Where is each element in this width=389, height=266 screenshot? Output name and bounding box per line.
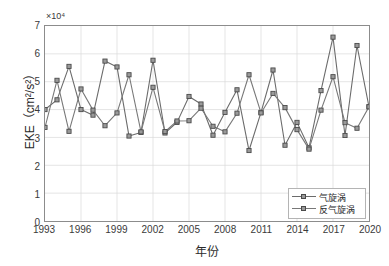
x-axis-title-text: 年份 [195,245,219,259]
data-point-marker [139,130,143,134]
x-tick-label: 2002 [142,224,164,235]
data-point-marker [235,88,239,92]
data-point-marker [259,111,263,115]
data-point-marker [355,126,359,130]
x-tick-label: 2020 [359,224,381,235]
data-point-marker [295,120,299,124]
data-point-marker [79,87,83,91]
data-point-marker [91,108,95,112]
data-point-marker [211,133,215,137]
data-point-marker [283,106,287,110]
data-point-marker [103,124,107,128]
y-axis-exponent-label: ×10⁴ [46,11,65,21]
x-tick-label: 1993 [33,224,55,235]
legend-item-anticyclonic[interactable]: 反气旋涡 [292,203,362,215]
legend-swatch-cyclonic [292,192,316,202]
data-point-marker [331,75,335,79]
data-point-marker [45,107,47,111]
data-point-marker [199,102,203,106]
legend-item-cyclonic[interactable]: 气旋涡 [292,191,362,203]
data-point-marker [151,58,155,62]
x-tick-label: 1999 [105,224,127,235]
data-point-marker [151,85,155,89]
data-point-marker [355,43,359,47]
legend-label-anticyclonic: 反气旋涡 [316,203,355,216]
x-tick-label: 2014 [286,224,308,235]
data-point-marker [283,143,287,147]
y-axis-title-text: EKE（cm²/s²） [23,68,37,149]
data-point-marker [367,105,369,109]
data-point-marker [247,73,251,77]
data-point-marker [175,119,179,123]
data-point-marker [343,133,347,137]
data-point-marker [79,107,83,111]
data-point-marker [55,78,59,82]
data-point-marker [115,111,119,115]
data-point-marker [331,35,335,39]
data-point-marker [55,98,59,102]
series-2 [45,73,369,152]
x-axis-title: 年份 [44,242,370,259]
data-point-marker [271,91,275,95]
y-axis-exponent-text: ×10⁴ [46,11,65,21]
data-point-marker [187,94,191,98]
x-tick-label: 2011 [251,224,273,235]
data-point-marker [163,129,167,133]
data-point-marker [127,73,131,77]
data-point-marker [91,113,95,117]
data-point-marker [343,121,347,125]
data-point-marker [199,106,203,110]
data-point-marker [115,65,119,69]
x-axis-tick-labels: 1993199619992002200520082011201420172020 [44,224,370,240]
data-point-marker [67,64,71,68]
data-point-marker [67,129,71,133]
data-point-marker [247,148,251,152]
legend-marker-anticyclonic [301,206,306,211]
legend-marker-cyclonic [301,194,306,199]
data-point-marker [223,130,227,134]
x-tick-label: 2005 [178,224,200,235]
data-point-marker [187,119,191,123]
data-point-marker [235,111,239,115]
data-point-marker [307,147,311,151]
data-point-marker [127,134,131,138]
series-1 [45,35,369,153]
x-tick-label: 2017 [323,224,345,235]
data-point-marker [319,108,323,112]
data-point-marker [319,89,323,93]
data-point-marker [103,59,107,63]
data-point-marker [295,128,299,132]
data-point-marker [223,110,227,114]
x-tick-label: 2008 [214,224,236,235]
y-axis-title: EKE（cm²/s²） [20,19,37,199]
data-point-marker [45,125,47,129]
x-tick-label: 1996 [69,224,91,235]
data-point-marker [271,68,275,72]
data-point-marker [211,124,215,128]
legend-swatch-anticyclonic [292,204,316,214]
legend: 气旋涡 反气旋涡 [288,188,366,219]
eke-timeseries-figure: ×10⁴ 01234567 19931996199920022005200820… [0,0,389,266]
